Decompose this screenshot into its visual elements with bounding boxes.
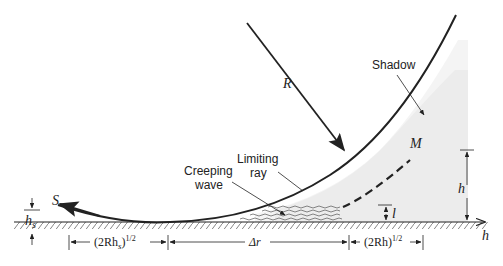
incident-ray-R — [247, 23, 344, 150]
label-limiting-ray-1: Limiting — [237, 152, 278, 166]
ground-hatch — [14, 222, 488, 229]
creeping-wave-leader — [232, 182, 285, 215]
label-creeping-wave-2: wave — [194, 178, 223, 192]
creeping-wave-diagram: R Shadow Limiting ray Creeping wave M S … — [0, 0, 503, 266]
dim-left-label: (2Rhs)1/2 — [94, 234, 136, 251]
label-h-right: h — [458, 181, 465, 196]
label-h-axis: h — [482, 228, 489, 243]
label-limiting-ray-2: ray — [250, 166, 267, 180]
label-M: M — [409, 136, 423, 151]
limiting-ray-leader — [278, 172, 303, 191]
dim-middle-label: Δr — [248, 235, 261, 249]
label-creeping-wave-1: Creeping — [184, 164, 233, 178]
label-S: S — [52, 193, 59, 208]
label-hs: hs — [25, 213, 36, 230]
dim-right-label: (2Rh)1/2 — [364, 234, 402, 249]
label-shadow: Shadow — [372, 58, 416, 72]
label-R: R — [282, 76, 292, 91]
label-l: l — [392, 206, 396, 221]
